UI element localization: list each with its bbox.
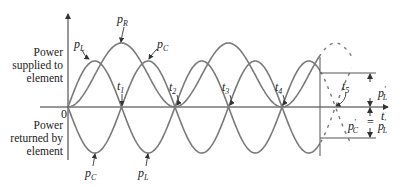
marker-t4: t4 (275, 81, 282, 98)
label-pC-prime-lower: p′C (348, 116, 358, 137)
sub: R (123, 19, 128, 28)
sub: 4 (278, 87, 282, 96)
sub: 1 (120, 86, 124, 95)
origin-label: 0 (61, 108, 67, 121)
marker-t1: t1 (117, 80, 124, 97)
sub: 5 (345, 86, 349, 95)
sub: C (353, 126, 358, 135)
sub: L (144, 173, 148, 182)
label-pL-prime-upper: p′L (378, 83, 387, 104)
sub: 3 (225, 87, 229, 96)
label-pL-prime-lower: p′L (378, 116, 387, 137)
sub: C (91, 173, 96, 182)
marker-t5: t5 (342, 80, 349, 97)
label-pC-top: pC (157, 38, 168, 55)
sub: 2 (172, 87, 176, 96)
sub: L (383, 126, 387, 135)
label-line: Power (10, 119, 63, 132)
marker-t3: t3 (222, 81, 229, 98)
sub: C (163, 44, 168, 53)
pR-curve (40, 43, 360, 107)
label-pC-bottom: pC (85, 167, 96, 184)
label-pL-top: pL (74, 38, 84, 55)
equals-sign: = (367, 116, 374, 129)
label-line: supplied to (12, 59, 63, 72)
pR-curve (40, 43, 360, 107)
label-line: element (12, 72, 63, 85)
marker-t2: t2 (169, 81, 176, 98)
label-pL-bottom: pL (138, 167, 148, 184)
label-pR: pR (117, 13, 128, 30)
leader-pC-top (149, 49, 157, 59)
power-supplied-label: Power supplied to element (12, 46, 63, 85)
sub: L (383, 93, 387, 102)
leader-pC-bottom (93, 154, 95, 166)
sub: L (80, 44, 84, 53)
label-line: returned by (10, 132, 63, 145)
leader-pL-bottom (146, 154, 148, 166)
label-line: element (10, 145, 63, 158)
label-line: Power (12, 46, 63, 59)
power-returned-label: Power returned by element (10, 119, 63, 158)
